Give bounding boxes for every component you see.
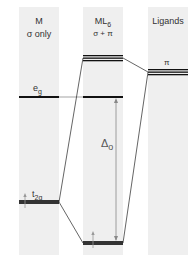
- eg-label: eg: [33, 83, 42, 95]
- delta-o-label: Δo: [101, 137, 113, 152]
- energy-level-lines: [0, 0, 196, 268]
- t2g-label: t2g: [32, 189, 42, 201]
- pi-label: π: [164, 58, 170, 67]
